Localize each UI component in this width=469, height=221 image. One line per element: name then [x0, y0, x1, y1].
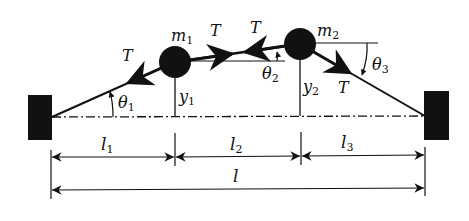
tension-arrow-4 — [312, 51, 350, 73]
mass-1-label: m1 — [171, 26, 193, 47]
segment-label-1: l1 — [101, 134, 113, 156]
dim-line-l3 — [302, 155, 424, 156]
segment-label-2: l2 — [230, 134, 242, 156]
string-masses-diagram: m1 m2 T T T T θ1 θ2 θ3 y1 y2 l1 l2 l3 l — [0, 0, 469, 221]
right-support — [424, 91, 449, 140]
angle-label-2: θ2 — [262, 64, 279, 85]
mass-2 — [284, 28, 316, 60]
tension-arrow-3 — [245, 46, 285, 52]
angle-arc-3 — [362, 43, 367, 75]
tension-label-2: T — [210, 21, 222, 40]
total-length-label: l — [233, 166, 238, 186]
dim-line-l2 — [176, 156, 300, 157]
angle-label-3: θ3 — [372, 55, 389, 76]
angle-label-1: θ1 — [118, 93, 135, 114]
angle-arc-1 — [110, 92, 113, 117]
height-label-2: y2 — [302, 77, 319, 98]
tension-label-4: T — [338, 78, 350, 97]
mass-2-label: m2 — [317, 21, 339, 42]
mass-1 — [159, 46, 191, 78]
left-support — [28, 95, 52, 140]
baseline — [52, 116, 424, 117]
tension-label-3: T — [250, 18, 262, 37]
tension-arrow-2 — [190, 54, 232, 60]
segment-label-3: l3 — [341, 132, 353, 154]
height-label-1: y1 — [178, 87, 195, 108]
angle-arc-2 — [277, 52, 278, 61]
tension-label-1: T — [122, 46, 134, 65]
dim-line-l — [52, 188, 424, 190]
